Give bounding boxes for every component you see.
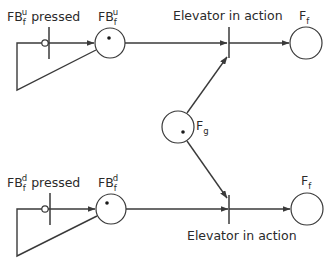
label-fbfd: FBfd [98,173,118,193]
inhibitor-circle-icon [42,206,48,212]
arc-fg-to-elevator-bottom [187,141,227,198]
label-down-pressed: FBfd pressed [7,173,80,193]
arc-fg-to-elevator-top [187,57,227,113]
label-ff-top: Ff [299,8,310,26]
token-icon [107,36,111,40]
top-row: FBfu pressed FBfu Elevator in action Ff [7,7,322,90]
place-fg [162,111,194,143]
token-icon [181,130,185,134]
label-fbfu: FBfu [98,7,118,27]
label-fg: Fg [196,118,209,136]
middle: Fg [162,57,227,198]
label-elevator-bottom: Elevator in action [187,228,297,243]
arc-fbfu-to-up-pressed [17,43,96,90]
bottom-row: FBfd pressed FBfd Elevator in action Ff [7,173,323,256]
place-fbfu [95,28,125,58]
label-ff-bottom: Ff [301,173,312,191]
label-elevator-top: Elevator in action [173,8,283,23]
arc-fbfd-to-down-pressed [17,209,97,256]
token-icon [105,201,109,205]
place-ff-top [290,27,322,59]
petri-net-diagram: FBfu pressed FBfu Elevator in action Ff … [0,0,334,268]
place-fbfd [96,194,126,224]
place-ff-bottom [291,193,323,225]
inhibitor-circle-icon [42,40,48,46]
label-up-pressed: FBfu pressed [7,7,80,27]
